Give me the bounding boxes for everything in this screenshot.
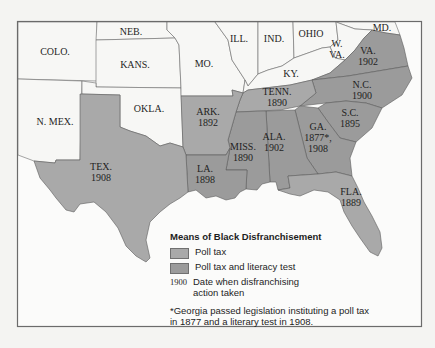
label-miss-year: 1890: [230, 152, 256, 163]
legend-title: Means of Black Disfranchisement: [170, 231, 420, 242]
label-ill: ILL.: [230, 33, 248, 44]
label-tenn-name: TENN.: [262, 86, 291, 97]
label-tex-year: 1908: [90, 172, 112, 183]
poll-tax-literacy-swatch: [170, 263, 189, 274]
legend-footnote: *Georgia passed legislation instituting …: [170, 306, 370, 327]
poll-tax-swatch: [170, 248, 189, 259]
label-mo: MO.: [195, 58, 214, 69]
label-ala: ALA. 1902: [262, 131, 285, 153]
label-ark-year: 1892: [196, 117, 220, 128]
label-tex-name: TEX.: [90, 161, 112, 172]
label-ark: ARK. 1892: [196, 106, 220, 128]
label-w-va: W. VA.: [329, 38, 345, 60]
label-ga: GA. 1877*, 1908: [304, 121, 332, 154]
label-ind: IND.: [264, 33, 284, 44]
label-va-year: 1902: [358, 56, 378, 67]
label-ala-name: ALA.: [262, 131, 285, 142]
label-s-c: S.C. 1895: [340, 107, 360, 129]
legend-item-poll-tax-literacy: Poll tax and literacy test: [170, 262, 420, 274]
date-sample: 1900: [170, 277, 188, 288]
label-fla-year: 1889: [340, 197, 361, 208]
label-s-c-name: S.C.: [340, 107, 360, 118]
label-ga-year: 1877*,: [304, 132, 332, 143]
label-neb: NEB.: [120, 26, 143, 37]
label-md: MD.: [373, 22, 392, 33]
label-ohio: OHIO: [299, 28, 324, 39]
label-kans: KANS.: [120, 59, 150, 70]
legend-date-label: Date when disfranchising action taken: [193, 277, 303, 298]
label-la-name: LA.: [195, 163, 215, 174]
label-n-c: N.C. 1900: [352, 79, 372, 101]
label-fla: FLA. 1889: [340, 186, 361, 208]
label-miss: MISS. 1890: [230, 141, 256, 163]
label-tenn: TENN. 1890: [262, 86, 291, 108]
label-ga-year2: 1908: [304, 143, 332, 154]
legend-label: Poll tax and literacy test: [195, 262, 295, 273]
label-la-year: 1898: [195, 174, 215, 185]
label-va-name: VA.: [358, 45, 378, 56]
label-w-va-line2: VA.: [329, 49, 345, 60]
label-n-mex: N. MEX.: [37, 116, 74, 127]
label-ark-name: ARK.: [196, 106, 220, 117]
label-fla-name: FLA.: [340, 186, 361, 197]
map-legend: Means of Black Disfranchisement Poll tax…: [170, 231, 420, 327]
label-ala-year: 1902: [262, 142, 285, 153]
label-s-c-year: 1895: [340, 118, 360, 129]
label-va: VA. 1902: [358, 45, 378, 67]
label-n-c-year: 1900: [352, 90, 372, 101]
label-la: LA. 1898: [195, 163, 215, 185]
label-ky: KY.: [283, 68, 299, 79]
legend-item-poll-tax: Poll tax: [170, 247, 420, 259]
label-w-va-line1: W.: [329, 38, 345, 49]
label-tenn-year: 1890: [262, 97, 291, 108]
label-miss-name: MISS.: [230, 141, 256, 152]
label-ga-name: GA.: [304, 121, 332, 132]
label-colo: COLO.: [40, 46, 70, 57]
label-okla: OKLA.: [134, 103, 164, 114]
label-tex: TEX. 1908: [90, 161, 112, 183]
legend-item-date: 1900 Date when disfranchising action tak…: [170, 277, 420, 298]
label-n-c-name: N.C.: [352, 79, 372, 90]
legend-label: Poll tax: [195, 247, 226, 258]
